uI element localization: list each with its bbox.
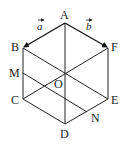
hexagon-edges bbox=[23, 23, 108, 124]
segment-CD bbox=[23, 99, 65, 124]
label-A: A bbox=[60, 8, 69, 22]
vector-a-arrow bbox=[24, 23, 65, 47]
vector-a-label: a bbox=[37, 20, 43, 32]
label-F: F bbox=[111, 40, 118, 54]
label-B: B bbox=[11, 40, 19, 54]
label-M: M bbox=[9, 66, 20, 80]
vector-b-label: b bbox=[86, 20, 92, 32]
hexagon-vector-diagram: a b A B F M O C E N D bbox=[0, 0, 131, 151]
label-N: N bbox=[91, 111, 100, 125]
label-E: E bbox=[111, 93, 118, 107]
label-O: O bbox=[54, 77, 63, 91]
label-D: D bbox=[60, 127, 69, 141]
label-C: C bbox=[11, 93, 19, 107]
